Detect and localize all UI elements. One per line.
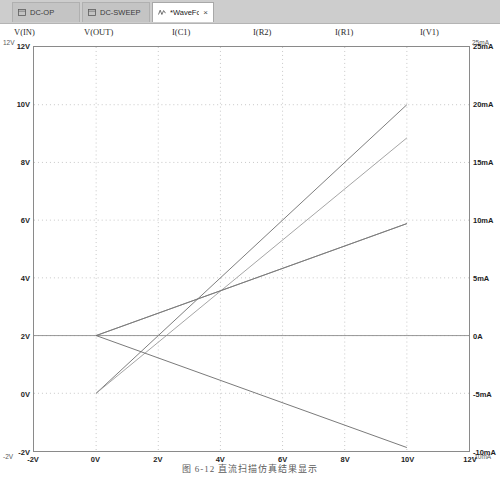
tab-dc-sweep[interactable]: DC-SWEEP [82, 2, 150, 22]
trace-vout [96, 138, 407, 393]
trace-vin [96, 105, 407, 394]
trace-ir1 [96, 224, 407, 336]
tab-waveform-label: *WaveForm [170, 8, 199, 17]
tab-strip: DC-OP DC-SWEEP *WaveForm × [0, 0, 500, 24]
y-axis-right-tick-2: 0A [473, 332, 500, 341]
y-axis-right-tick-1: -5mA [473, 390, 500, 399]
tab-dc-sweep-label: DC-SWEEP [100, 8, 144, 17]
tab-dc-op-label: DC-OP [30, 8, 74, 17]
waveform-icon [158, 9, 166, 16]
y-axis-right-tick-7: 25mA [473, 42, 500, 51]
trace-iv1 [96, 336, 407, 448]
y-axis-right-tick-5: 15mA [473, 158, 500, 167]
plot-canvas[interactable] [33, 46, 470, 452]
document-icon [18, 9, 26, 16]
y-axis-left-tick-6: 10V [1, 100, 30, 109]
y-axis-right-tick-3: 5mA [473, 274, 500, 283]
close-icon[interactable]: × [203, 9, 208, 17]
tab-waveform[interactable]: *WaveForm × [152, 2, 214, 22]
y-axis-left-tick-3: 4V [1, 274, 30, 283]
figure-caption: 图 6-12 直流扫描仿真结果显示 [0, 462, 500, 477]
y-axis-left-tick-4: 6V [1, 216, 30, 225]
y-axis-left-tick-1: 0V [1, 390, 30, 399]
y-axis-left-tick-2: 2V [1, 332, 30, 341]
waveform-plot-area: 12V 25mA -2V -10mA -2V0V2V4V6V8V10V12V-1… [0, 36, 500, 462]
trace-layer [34, 47, 469, 451]
y-axis-left-tick-5: 8V [1, 158, 30, 167]
tab-dc-op[interactable]: DC-OP [12, 2, 80, 22]
y-axis-right-tick-6: 20mA [473, 100, 500, 109]
y-axis-left-tick-7: 12V [1, 42, 30, 51]
y-axis-right-tick-4: 10mA [473, 216, 500, 225]
document-icon [88, 9, 96, 16]
